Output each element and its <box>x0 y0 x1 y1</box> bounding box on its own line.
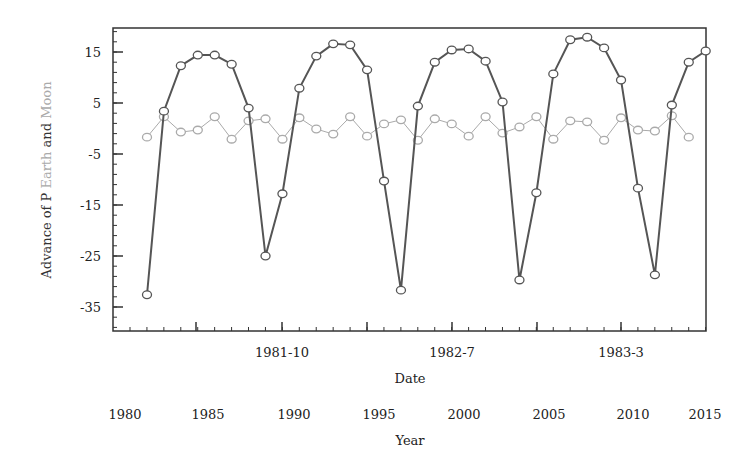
data-point-marker <box>650 127 659 135</box>
data-point-marker <box>295 84 304 92</box>
year-tick-label: 2005 <box>532 407 565 422</box>
data-point-marker <box>346 113 355 121</box>
data-point-marker <box>396 116 405 124</box>
data-point-marker <box>447 46 456 54</box>
year-tick-label: 1990 <box>277 407 310 422</box>
data-point-marker <box>193 51 202 59</box>
data-point-marker <box>210 113 219 121</box>
data-point-marker <box>227 135 236 143</box>
y-tick-label: -35 <box>80 300 101 315</box>
data-point-marker <box>261 115 270 123</box>
data-point-marker <box>346 41 355 49</box>
series-layer <box>143 33 711 298</box>
data-point-marker <box>261 252 270 260</box>
x-tick-label: 1983-3 <box>598 345 644 360</box>
y-tick-label: -5 <box>88 147 101 162</box>
data-point-marker <box>532 189 541 197</box>
data-point-marker <box>193 126 202 134</box>
data-point-marker <box>380 120 389 128</box>
data-point-marker <box>633 184 642 192</box>
data-point-marker <box>278 190 287 198</box>
data-point-marker <box>413 102 422 110</box>
series-earth <box>143 33 711 298</box>
data-point-marker <box>159 107 168 115</box>
data-point-marker <box>498 98 507 106</box>
data-point-marker <box>430 58 439 66</box>
data-point-marker <box>396 286 405 294</box>
data-point-marker <box>549 135 558 143</box>
y-tick-label: -15 <box>80 198 101 213</box>
year-tick-label: 1995 <box>362 407 395 422</box>
data-point-marker <box>684 133 693 141</box>
data-point-marker <box>143 291 152 299</box>
year-tick-label: 2015 <box>688 407 721 422</box>
data-point-marker <box>566 36 575 44</box>
data-point-marker <box>617 76 626 84</box>
data-point-marker <box>650 271 659 279</box>
y-axis-title: Advance of P Earth and Moon <box>39 81 54 280</box>
data-point-marker <box>464 45 473 53</box>
data-point-marker <box>278 135 287 143</box>
data-point-marker <box>701 47 710 55</box>
x-axis-title: Date <box>394 371 425 386</box>
data-point-marker <box>549 70 558 78</box>
data-point-marker <box>244 117 253 125</box>
data-point-marker <box>684 58 693 66</box>
data-point-marker <box>515 276 524 284</box>
y-tick-label: 15 <box>84 45 101 60</box>
data-point-marker <box>447 120 456 128</box>
data-point-marker <box>600 44 609 52</box>
secondary-year-axis: 19801985199019952000200520102015 <box>108 407 721 422</box>
data-point-marker <box>430 115 439 123</box>
data-point-marker <box>312 125 321 133</box>
data-point-marker <box>532 113 541 121</box>
data-point-marker <box>481 57 490 65</box>
year-tick-label: 2000 <box>447 407 480 422</box>
data-point-marker <box>295 114 304 122</box>
data-point-marker <box>515 123 524 131</box>
data-point-marker <box>464 132 473 140</box>
advance-chart: 155-5-15-25-35 1981-101982-71983-3 Advan… <box>0 0 753 465</box>
year-tick-label: 1985 <box>191 407 224 422</box>
data-point-marker <box>329 130 338 138</box>
y-tick-label: -25 <box>80 249 101 264</box>
data-point-marker <box>363 132 372 140</box>
x-axis: 1981-101982-71983-3 <box>130 322 706 360</box>
x-tick-label: 1981-10 <box>255 345 309 360</box>
year-tick-label: 1980 <box>108 407 141 422</box>
data-point-marker <box>210 51 219 59</box>
data-point-marker <box>583 118 592 126</box>
data-point-marker <box>667 101 676 109</box>
data-point-marker <box>380 177 389 185</box>
data-point-marker <box>176 128 185 136</box>
data-point-marker <box>227 60 236 68</box>
data-point-marker <box>600 136 609 144</box>
data-point-marker <box>329 40 338 48</box>
data-point-marker <box>583 33 592 41</box>
year-tick-label: 2010 <box>616 407 649 422</box>
data-point-marker <box>176 62 185 70</box>
data-point-marker <box>633 126 642 134</box>
data-point-marker <box>363 66 372 74</box>
y-tick-label: 5 <box>93 96 101 111</box>
data-point-marker <box>143 133 152 141</box>
data-point-marker <box>481 113 490 121</box>
data-point-marker <box>566 117 575 125</box>
x-tick-label: 1982-7 <box>429 345 475 360</box>
y-axis: 155-5-15-25-35 <box>80 32 123 328</box>
secondary-x-axis-title: Year <box>394 433 425 448</box>
data-point-marker <box>617 114 626 122</box>
data-point-marker <box>244 104 253 112</box>
data-point-marker <box>312 52 321 60</box>
